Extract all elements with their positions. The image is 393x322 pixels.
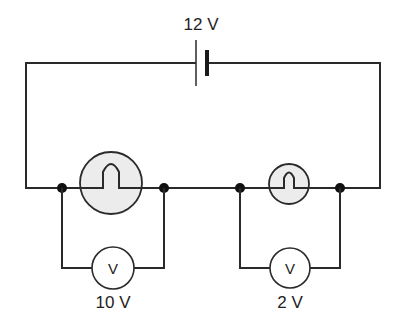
voltmeter-1: V <box>92 247 134 289</box>
voltmeter-2-lead-left <box>240 188 270 268</box>
battery-cell <box>196 40 207 86</box>
voltmeter-1-lead-right <box>134 188 164 268</box>
voltmeter-2: V <box>270 248 310 288</box>
circuit-diagram: 12 V V 10 V V 2 V <box>0 0 393 322</box>
small-lamp <box>269 164 309 204</box>
voltmeter-1-reading: 10 V <box>96 293 132 312</box>
voltmeter-symbol: V <box>108 260 118 277</box>
battery-voltage-label: 12 V <box>184 15 220 34</box>
voltmeter-symbol: V <box>285 260 295 277</box>
voltmeter-2-lead-right <box>310 188 340 268</box>
voltmeter-2-reading: 2 V <box>277 293 303 312</box>
large-lamp <box>80 152 142 214</box>
